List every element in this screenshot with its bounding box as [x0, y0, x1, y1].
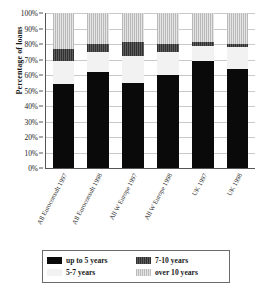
legend-swatch-icon: [136, 257, 151, 264]
bar-segment[interactable]: [227, 44, 249, 47]
y-tick-mark: [39, 137, 43, 138]
bar-segment[interactable]: [192, 13, 214, 42]
legend-item[interactable]: 5-7 years: [47, 267, 136, 280]
y-tick-label: 90%: [24, 24, 38, 33]
y-tick-mark: [39, 106, 43, 107]
x-label-slot: UK 1998: [219, 170, 254, 232]
legend-item[interactable]: over 10 years: [136, 267, 225, 280]
bar-segment[interactable]: [122, 13, 144, 42]
x-category-label: UK 1997: [190, 172, 208, 197]
chart-figure: Percentage of loans 0%10%20%30%40%50%60%…: [0, 0, 264, 292]
y-tick-mark: [39, 121, 43, 122]
y-tick-mark: [39, 44, 43, 45]
y-tick-label: 50%: [24, 86, 38, 95]
y-axis-tick-labels: 0%10%20%30%40%50%60%70%80%90%100%: [0, 13, 43, 168]
bar-slot: [150, 13, 185, 168]
bar-segment[interactable]: [227, 69, 249, 168]
bar-segment[interactable]: [192, 61, 214, 168]
bar-series-group: [46, 13, 255, 168]
bar-segment[interactable]: [53, 49, 75, 61]
bar-segment[interactable]: [157, 52, 179, 75]
bar-segment[interactable]: [192, 46, 214, 62]
legend-swatch-icon: [47, 269, 62, 276]
bar-segment[interactable]: [53, 84, 75, 168]
x-axis-category-labels: All Euroconsult 1997All Euroconsult 1998…: [45, 170, 254, 232]
y-tick-label: 60%: [24, 71, 38, 80]
x-category-label: All Euroconsult 1997: [36, 172, 69, 225]
x-category-label: UK 1998: [225, 172, 243, 197]
legend-label: over 10 years: [155, 268, 198, 277]
bar-segment[interactable]: [192, 42, 214, 45]
stacked-bar[interactable]: [157, 13, 179, 168]
stacked-bar[interactable]: [227, 13, 249, 168]
y-tick-mark: [39, 28, 43, 29]
legend-item[interactable]: up to 5 years: [47, 254, 136, 267]
bar-slot: [46, 13, 81, 168]
x-label-slot: UK 1997: [184, 170, 219, 232]
legend-label: up to 5 years: [66, 256, 108, 265]
bar-segment[interactable]: [157, 44, 179, 52]
y-tick-mark: [39, 168, 43, 169]
bar-segment[interactable]: [122, 42, 144, 56]
x-label-slot: All W Europe 1997: [115, 170, 150, 232]
y-tick-mark: [39, 59, 43, 60]
bar-segment[interactable]: [87, 44, 109, 52]
stacked-bar[interactable]: [87, 13, 109, 168]
bar-segment[interactable]: [53, 61, 75, 84]
y-tick-label: 0%: [28, 164, 38, 173]
y-tick-mark: [39, 75, 43, 76]
gridline-0%: [46, 168, 255, 169]
y-tick-label: 100%: [21, 9, 38, 18]
stacked-bar[interactable]: [122, 13, 144, 168]
bar-slot: [116, 13, 151, 168]
bar-segment[interactable]: [227, 47, 249, 69]
plot-area: [45, 13, 255, 169]
y-tick-mark: [39, 152, 43, 153]
stacked-bar[interactable]: [192, 13, 214, 168]
y-tick-label: 10%: [24, 148, 38, 157]
x-label-slot: All Euroconsult 1998: [80, 170, 115, 232]
bar-slot: [81, 13, 116, 168]
bar-segment[interactable]: [87, 13, 109, 44]
bar-segment[interactable]: [157, 75, 179, 168]
y-tick-label: 80%: [24, 40, 38, 49]
bar-segment[interactable]: [122, 83, 144, 168]
bar-segment[interactable]: [87, 52, 109, 72]
stacked-bar[interactable]: [53, 13, 75, 168]
bar-segment[interactable]: [87, 72, 109, 168]
bar-segment[interactable]: [157, 13, 179, 44]
legend-label: 5-7 years: [66, 268, 95, 277]
y-tick-label: 40%: [24, 102, 38, 111]
bar-segment[interactable]: [227, 13, 249, 44]
y-tick-label: 30%: [24, 117, 38, 126]
y-tick-label: 20%: [24, 133, 38, 142]
legend-label: 7-10 years: [155, 256, 188, 265]
y-tick-mark: [39, 13, 43, 14]
legend-item[interactable]: 7-10 years: [136, 254, 225, 267]
chart-legend: up to 5 years7-10 years5-7 yearsover 10 …: [42, 250, 230, 283]
bar-slot: [220, 13, 255, 168]
x-label-slot: All W Europe 1998: [149, 170, 184, 232]
y-tick-mark: [39, 90, 43, 91]
bar-segment[interactable]: [53, 13, 75, 49]
y-tick-label: 70%: [24, 55, 38, 64]
bar-slot: [185, 13, 220, 168]
legend-swatch-icon: [136, 269, 151, 276]
legend-swatch-icon: [47, 257, 62, 264]
bar-segment[interactable]: [122, 56, 144, 82]
